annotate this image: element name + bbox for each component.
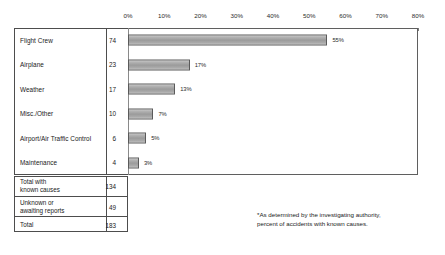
bar-row: 17% xyxy=(128,53,418,78)
category-count: 74 xyxy=(100,37,116,44)
bar-value-label: 5% xyxy=(151,135,159,141)
category-row: Airplane23 xyxy=(14,53,128,78)
category-label: Flight Crew xyxy=(20,37,53,44)
chart-footnote: *As determined by the investigating auth… xyxy=(257,210,437,228)
axis-tick-label: 50% xyxy=(303,12,316,19)
summary-row: Total with known causes134 xyxy=(14,176,128,197)
category-label: Misc./Other xyxy=(20,110,53,117)
bar-value-label: 55% xyxy=(332,37,344,43)
bar xyxy=(128,157,139,168)
axis-tick-label: 20% xyxy=(194,12,207,19)
category-row: Flight Crew74 xyxy=(14,28,128,53)
x-axis: 0%10%20%30%40%50%60%70%80% xyxy=(128,12,418,28)
bar xyxy=(128,133,146,144)
category-label: Weather xyxy=(20,86,44,93)
summary-label: Unknown or awaiting reports xyxy=(20,198,64,214)
axis-tick-label: 40% xyxy=(267,12,280,19)
summary-label: Total xyxy=(20,220,33,228)
axis-tick-label: 80% xyxy=(412,12,425,19)
category-count: 6 xyxy=(100,135,116,142)
category-count: 10 xyxy=(100,110,116,117)
summary-count: 183 xyxy=(100,221,116,228)
bar-row: 5% xyxy=(128,126,418,151)
axis-tick-label: 60% xyxy=(339,12,352,19)
bar xyxy=(128,35,327,46)
bar-row: 3% xyxy=(128,151,418,176)
footnote-line: *As determined by the investigating auth… xyxy=(257,210,437,219)
category-count: 17 xyxy=(100,86,116,93)
bar xyxy=(128,59,190,70)
summary-count: 49 xyxy=(100,203,116,210)
axis-tick-label: 70% xyxy=(375,12,388,19)
axis-tick-label: 0% xyxy=(123,12,132,19)
category-label: Airplane xyxy=(20,61,44,68)
axis-tick-mark xyxy=(418,28,419,31)
summary-label: Total with known causes xyxy=(20,178,60,194)
category-row: Weather17 xyxy=(14,77,128,102)
summary-count: 134 xyxy=(100,183,116,190)
bar xyxy=(128,84,175,95)
bar-row: 13% xyxy=(128,77,418,102)
bars-layer: 55%17%13%7%5%3% xyxy=(128,28,418,175)
summary-row: Total183 xyxy=(14,217,128,232)
bar-value-label: 17% xyxy=(195,62,207,68)
category-count: 4 xyxy=(100,159,116,166)
bar xyxy=(128,108,153,119)
category-row: Maintenance4 xyxy=(14,151,128,176)
category-count: 23 xyxy=(100,61,116,68)
category-row: Airport/Air Traffic Control6 xyxy=(14,126,128,151)
axis-tick-label: 10% xyxy=(158,12,171,19)
summary-row: Unknown or awaiting reports49 xyxy=(14,197,128,217)
bar-value-label: 3% xyxy=(144,160,152,166)
bar-row: 55% xyxy=(128,28,418,53)
footnote-line: percent of accidents with known causes. xyxy=(257,219,437,228)
category-label: Maintenance xyxy=(20,159,57,166)
bar-value-label: 7% xyxy=(158,111,166,117)
bar-value-label: 13% xyxy=(180,86,192,92)
category-row: Misc./Other10 xyxy=(14,102,128,127)
axis-tick-label: 30% xyxy=(230,12,243,19)
category-label: Airport/Air Traffic Control xyxy=(20,135,91,142)
bar-row: 7% xyxy=(128,102,418,127)
